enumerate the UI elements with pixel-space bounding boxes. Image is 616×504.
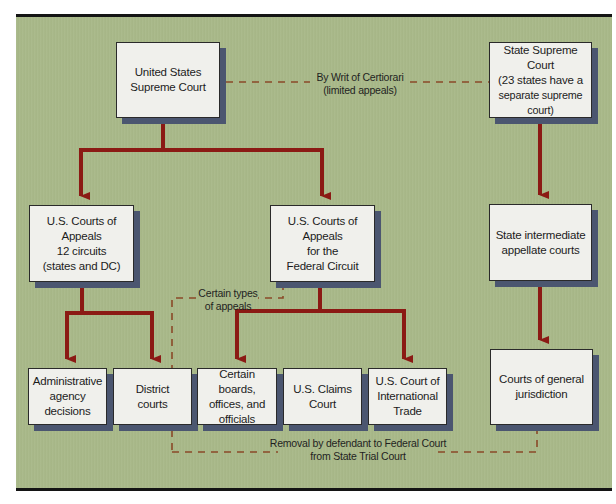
node-claims-court: U.S. ClaimsCourt bbox=[283, 368, 362, 425]
node-state-intermediate: State intermediateappellate courts bbox=[489, 204, 592, 281]
label-certain-types: Certain types of appeals bbox=[192, 287, 264, 313]
node-state-supreme-court: State Supreme Court(23 states have asepa… bbox=[489, 42, 592, 118]
removal-dash-right bbox=[438, 430, 537, 452]
node-federal-circuit: U.S. Courts of Appealsfor theFederal Cir… bbox=[270, 205, 375, 282]
node-certain-boards: Certain boards,offices, andofficials bbox=[197, 368, 277, 425]
node-admin-agency: Administrativeagencydecisions bbox=[28, 368, 107, 425]
node-us-courts-of-appeals: U.S. Courts of Appeals12 circuits(states… bbox=[29, 205, 134, 282]
label-removal: Removal by defendant to Federal Court fr… bbox=[268, 437, 448, 463]
node-district-courts: Districtcourts bbox=[113, 368, 192, 425]
node-general-jurisdiction: Courts of generaljurisdiction bbox=[490, 349, 593, 425]
node-international-trade: U.S. Court ofInternationalTrade bbox=[368, 368, 447, 425]
label-certiorari: By Writ of Certiorari (limited appeals) bbox=[300, 71, 420, 97]
node-us-supreme-court: United StatesSupreme Court bbox=[116, 42, 220, 118]
